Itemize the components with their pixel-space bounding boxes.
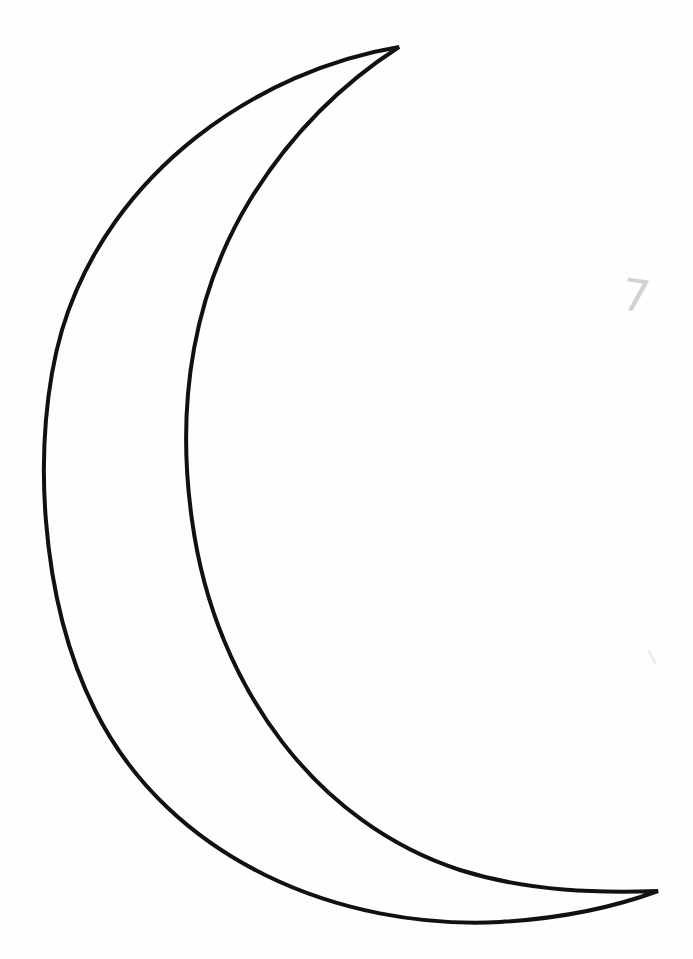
crescent-outline	[44, 47, 658, 923]
pencil-smudge	[648, 650, 656, 664]
coloring-page: 7	[0, 0, 693, 959]
pencil-number-annotation: 7	[619, 269, 666, 324]
crescent-moon-icon	[0, 0, 693, 959]
